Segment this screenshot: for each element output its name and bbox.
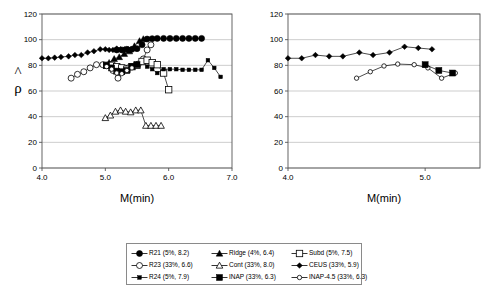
legend-item-label: R21 (5%, 8.2) [149,250,189,257]
open-circle-small-marker-icon [109,67,113,71]
filled-triangle-marker-icon [211,249,228,258]
small-filled-square-marker-icon [212,66,216,70]
open-circle-small-marker-icon [115,71,119,75]
x-axis-label: M(min) [367,192,401,204]
open-circle-marker-icon [115,75,121,81]
legend-item-label: R24 (5%, 7.9) [149,274,189,281]
plot-panels: 0204060801001204.05.06.07.0M(min)^ρ 0204… [0,0,489,215]
svg-text:^: ^ [14,64,21,80]
open-circle-small-marker-icon [125,68,129,72]
filled-diamond-marker-icon [58,54,64,60]
x-tick-label: 6.0 [163,173,175,182]
y-tick-label: 40 [274,112,283,121]
legend-item-subd: Subd (5%, 7.5) [291,249,363,258]
legend-item-ceus: CEUS (33%, 5.9) [291,261,363,270]
filled-square-marker-icon [422,62,428,68]
series-R21 [114,35,205,53]
filled-diamond-marker-icon [313,52,319,58]
y-tick-label: 120 [270,10,284,19]
open-circle-marker-icon [148,42,154,48]
legend-item-inap: INAP (33%, 6.3) [211,273,291,282]
open-circle-marker-icon [93,62,99,68]
y-tick-label: 0 [33,164,38,173]
right-plot-svg: 0204060801001204.05.0M(min) [240,0,489,215]
open-circle-small-marker-icon [368,70,372,74]
small-filled-square-marker-icon [181,68,185,72]
filled-square-marker-icon [134,62,140,68]
open-circle-marker-icon [131,261,148,270]
x-axis: 4.05.0 [282,168,431,182]
legend-item-label: Cont (33%, 8.0) [229,262,275,269]
open-circle-small-marker-icon [104,64,108,68]
small-filled-square-marker-icon [162,67,166,71]
open-circle-marker-icon [137,262,143,268]
open-circle-marker-icon [81,69,87,75]
filled-circle-marker-icon [161,35,167,41]
x-tick-label: 7.0 [226,173,238,182]
filled-diamond-marker-icon [46,55,52,61]
y-tick-label: 60 [28,87,37,96]
open-circle-small-marker-icon [412,62,416,66]
open-circle-small-marker-icon [297,275,301,279]
open-circle-small-marker-icon [291,273,308,282]
filled-circle-marker-icon [137,250,143,256]
filled-diamond-marker-icon [39,55,45,61]
small-filled-square-marker-icon [155,71,159,75]
filled-square-marker-icon [211,273,228,282]
filled-circle-marker-icon [192,35,198,41]
y-tick-label: 40 [28,112,37,121]
small-filled-square-marker-icon [145,65,149,69]
small-filled-square-marker-icon [187,68,191,72]
filled-diamond-marker-icon [326,54,332,60]
small-filled-square-marker-icon [206,58,210,62]
y-tick-label: 60 [274,87,283,96]
series-CEUS [285,44,435,61]
filled-square-marker-icon [217,274,223,280]
filled-diamond-marker-icon [85,50,91,56]
filled-diamond-marker-icon [66,54,72,60]
x-tick-label: 5.0 [420,173,432,182]
legend-grid: R21 (5%, 8.2)Ridge (4%, 6.4)Subd (5%, 7.… [131,247,357,283]
y-axis: 020406080100120 [24,10,42,173]
filled-square-marker-icon [436,67,442,73]
y-tick-label: 80 [28,61,37,70]
series-Cont [102,107,164,128]
legend-item-r21: R21 (5%, 8.2) [131,249,211,258]
x-axis: 4.05.06.07.0 [36,168,238,182]
open-square-marker-icon [291,249,308,258]
figure-container: 0204060801001204.05.06.07.0M(min)^ρ 0204… [0,0,489,298]
legend-item-label: Subd (5%, 7.5) [309,250,352,257]
open-triangle-marker-icon [117,107,124,113]
legend-item-label: INAP-4.5 (33%, 6.3) [309,274,367,281]
filled-diamond-marker-icon [387,50,393,56]
small-filled-square-marker-icon [219,75,223,79]
x-tick-label: 4.0 [282,173,294,182]
filled-diamond-marker-icon [370,52,376,58]
y-tick-label: 100 [24,35,38,44]
legend-item-ridge: Ridge (4%, 6.4) [211,249,291,258]
open-circle-small-marker-icon [120,71,124,75]
x-tick-label: 4.0 [36,173,48,182]
y-tick-label: 120 [24,10,38,19]
open-square-marker-icon [165,87,171,93]
filled-diamond-marker-icon [402,44,408,50]
filled-diamond-marker-icon [72,52,78,58]
y-tick-label: 80 [274,61,283,70]
filled-circle-marker-icon [173,35,179,41]
y-axis-label: ^ρ [14,64,22,96]
filled-circle-marker-icon [186,35,192,41]
y-tick-label: 0 [279,164,284,173]
filled-diamond-marker-icon [91,48,97,54]
open-triangle-marker-icon [211,261,228,270]
open-circle-small-marker-icon [382,64,386,68]
legend-item-label: INAP (33%, 6.3) [229,274,276,281]
filled-diamond-marker-icon [52,55,58,61]
filled-diamond-marker-icon [285,55,291,61]
small-filled-square-marker-icon [168,67,172,71]
filled-circle-marker-icon [131,249,148,258]
filled-diamond-marker-icon [299,55,305,61]
legend-item-r23: R23 (33%, 6.6) [131,261,211,270]
filled-diamond-marker-icon [291,261,308,270]
y-tick-label: 20 [28,138,37,147]
filled-diamond-marker-icon [297,262,303,268]
